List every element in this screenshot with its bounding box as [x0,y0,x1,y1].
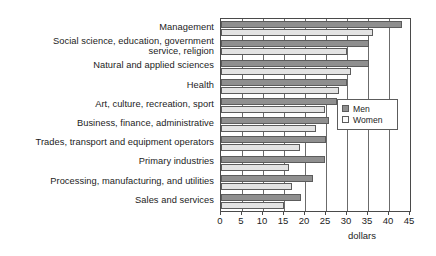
legend-swatch-men-icon [342,105,349,112]
category-label-6: Trades, transport and equipment operator… [0,137,214,147]
bar-men-3 [221,79,347,86]
bar-men-6 [221,136,326,143]
chart-legend: Men Women [337,99,398,130]
category-label-2: Natural and applied sciences [0,60,214,70]
bar-men-5 [221,117,329,124]
category-label-8: Processing, manufacturing, and utilities [0,176,214,186]
bar-women-3 [221,87,339,94]
bar-women-2 [221,68,351,75]
bar-men-9 [221,194,301,201]
tick-label-25: 25 [320,215,331,226]
category-label-7: Primary industries [0,156,214,166]
bar-women-0 [221,29,373,36]
bar-women-8 [221,183,292,190]
tick-label-20: 20 [299,215,310,226]
category-label-1: Social science, education, government se… [0,36,214,57]
bar-men-4 [221,98,337,105]
x-axis-title: dollars [348,230,376,241]
bar-men-0 [221,21,402,28]
tick-label-35: 35 [362,215,373,226]
tick-label-10: 10 [257,215,268,226]
tick-label-30: 30 [341,215,352,226]
category-axis-labels: ManagementSocial science, education, gov… [0,18,214,210]
legend-swatch-women-icon [342,116,349,123]
legend-label-men: Men [353,104,370,114]
bar-women-6 [221,144,300,151]
category-label-3: Health [0,80,214,90]
bar-women-1 [221,48,347,55]
bar-women-7 [221,164,289,171]
x-axis: 051015202530354045 [220,211,410,233]
bar-men-7 [221,156,325,163]
bar-men-8 [221,175,313,182]
category-label-5: Business, finance, administrative [0,118,214,128]
tick-label-40: 40 [383,215,394,226]
horizontal-bar-chart: ManagementSocial science, education, gov… [0,0,436,256]
bar-men-1 [221,40,369,47]
legend-item-women: Women [342,114,393,125]
legend-item-men: Men [342,103,393,114]
tick-label-15: 15 [278,215,289,226]
bar-women-5 [221,125,316,132]
tick-label-45: 45 [404,215,415,226]
category-label-4: Art, culture, recreation, sport [0,99,214,109]
bar-men-2 [221,60,369,67]
tick-label-5: 5 [238,215,243,226]
bar-women-9 [221,202,284,209]
category-label-9: Sales and services [0,195,214,205]
legend-label-women: Women [353,115,382,125]
category-label-0: Management [0,22,214,32]
tick-label-0: 0 [217,215,222,226]
bar-women-4 [221,106,325,113]
